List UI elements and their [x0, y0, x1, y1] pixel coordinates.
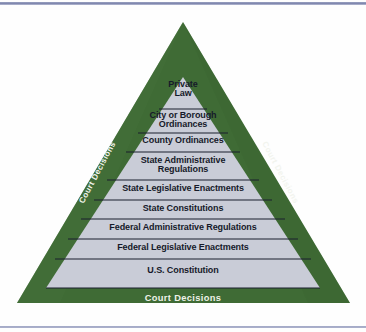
diagram-page: Private Law City or Borough Ordinances C… — [0, 0, 366, 332]
bottom-border-label-court-decisions: Court Decisions — [0, 293, 366, 303]
pyramid-graphic — [0, 0, 366, 332]
